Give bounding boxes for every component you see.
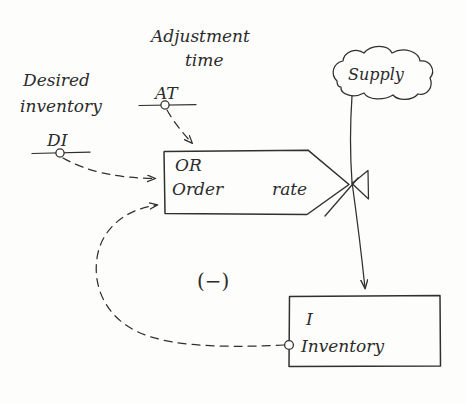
inventory-feedback-connector-dot[interactable] [285,341,294,350]
node-valve[interactable] [325,171,369,217]
adjustment-time-caption-line1: Adjustment [149,26,250,46]
supply-cloud-label: Supply [348,65,405,84]
order-rate-abbrev: OR [175,155,202,175]
adjustment-time-abbrev: AT [153,83,179,103]
system-dynamics-diagram: Adjustment time AT Desired inventory DI … [0,0,466,404]
desired-inventory-connector-dot[interactable] [56,149,64,157]
node-order-rate[interactable]: OR Order rate [164,150,349,214]
desired-inventory-abbrev: DI [46,130,68,150]
loop-polarity-marker: (−) [197,269,229,293]
node-desired-inventory[interactable]: Desired inventory DI [20,70,102,157]
node-inventory[interactable]: I Inventory [289,296,441,367]
flow-supply-to-valve[interactable] [351,96,353,182]
desired-inventory-caption-line1: Desired [22,70,90,90]
adjustment-time-caption-line2: time [185,50,223,70]
desired-inventory-caption-line2: inventory [20,96,102,116]
inventory-abbrev: I [305,309,313,329]
node-supply-cloud[interactable]: Supply [333,46,432,99]
loop-polarity-label: (−) [197,269,229,293]
order-rate-word-rate: rate [272,179,307,199]
valve-right-triangle [352,171,369,200]
flow-valve-to-inventory[interactable] [352,182,365,288]
diagram-canvas: Adjustment time AT Desired inventory DI … [0,0,466,404]
adjustment-time-connector-dot[interactable] [161,101,169,109]
order-rate-word-order: Order [172,179,224,199]
inventory-name: Inventory [300,336,384,356]
link-di-to-order-rate[interactable] [63,158,155,179]
link-at-to-order-rate[interactable] [167,110,192,143]
node-adjustment-time[interactable]: Adjustment time AT [139,26,250,109]
link-inventory-to-order-rate[interactable] [96,205,284,346]
